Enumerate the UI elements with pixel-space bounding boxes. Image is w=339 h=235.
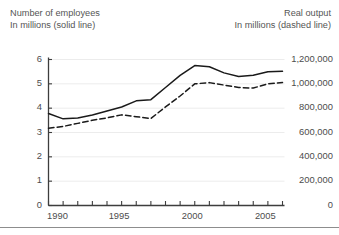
left-axis-tick-label: 3 xyxy=(2,127,42,137)
right-axis-tick-label: 1,000,000 xyxy=(271,78,333,88)
x-axis-tick-label: 2000 xyxy=(182,210,203,221)
right-axis-tick-label: 1,200,000 xyxy=(271,54,333,64)
right-axis-tick-label: 400,000 xyxy=(271,151,333,161)
x-axis-tick-label: 2005 xyxy=(255,210,276,221)
left-axis-tick-label: 1 xyxy=(2,175,42,185)
left-axis-tick-label: 2 xyxy=(2,151,42,161)
left-axis-tick-label: 5 xyxy=(2,78,42,88)
footer-divider xyxy=(0,227,339,228)
left-axis-tick-label: 0 xyxy=(2,200,42,210)
left-axis-tick-label: 4 xyxy=(2,102,42,112)
x-axis-tick-label: 1995 xyxy=(109,210,130,221)
series-line-2 xyxy=(49,83,283,129)
series-line-1 xyxy=(49,66,283,119)
right-axis-tick-label: 0 xyxy=(271,200,333,210)
right-axis-tick-label: 200,000 xyxy=(271,175,333,185)
chart-figure: Number of employees In millions (solid l… xyxy=(0,0,339,235)
right-axis-tick-label: 600,000 xyxy=(271,127,333,137)
x-axis-tick-label: 1990 xyxy=(47,210,68,221)
left-axis-tick-label: 6 xyxy=(2,54,42,64)
right-axis-tick-label: 800,000 xyxy=(271,102,333,112)
